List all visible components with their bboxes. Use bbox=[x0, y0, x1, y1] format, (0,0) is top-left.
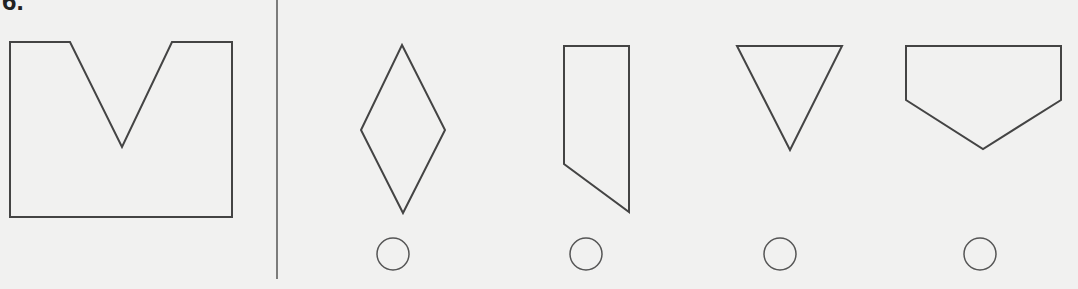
inverted-triangle-shape bbox=[737, 46, 842, 150]
option-radio-4[interactable] bbox=[964, 238, 996, 270]
option-house-pentagon[interactable] bbox=[906, 46, 1061, 270]
figure-canvas bbox=[0, 0, 1078, 289]
option-radio-2[interactable] bbox=[570, 238, 602, 270]
diamond-shape bbox=[361, 45, 445, 213]
option-diamond[interactable] bbox=[361, 45, 445, 270]
reference-shape bbox=[10, 42, 232, 217]
tall-pentagon-shape bbox=[564, 46, 629, 212]
option-radio-3[interactable] bbox=[764, 238, 796, 270]
option-tall-pentagon[interactable] bbox=[564, 46, 629, 270]
option-inverted-triangle[interactable] bbox=[737, 46, 842, 270]
option-radio-1[interactable] bbox=[377, 238, 409, 270]
house-pentagon-shape bbox=[906, 46, 1061, 149]
